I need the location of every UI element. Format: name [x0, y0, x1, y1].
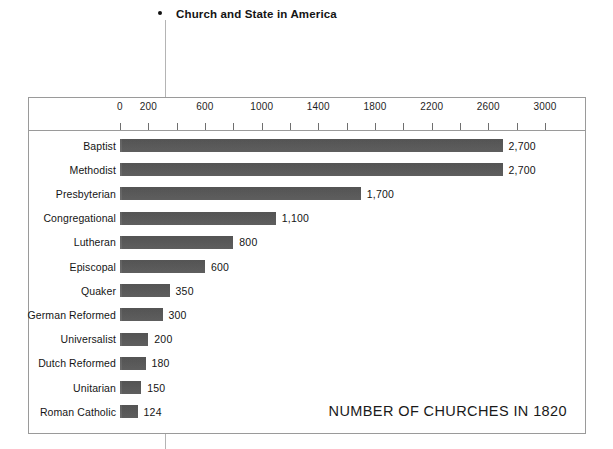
axis-tick-label: 2200 [420, 101, 443, 112]
chart-frame: 0200600100014001800220026003000 Baptist2… [28, 97, 586, 434]
axis-tick-label: 600 [196, 101, 213, 112]
bar [120, 357, 146, 370]
axis-tick [177, 123, 178, 130]
axis-tick-label: 1800 [363, 101, 386, 112]
bar-category-label-wrap: Quaker [29, 284, 116, 297]
bullet-dot-icon [158, 11, 162, 15]
bar-value-label: 350 [176, 285, 194, 297]
bar-category-label-wrap: Lutheran [29, 236, 116, 249]
axis-tick-label: 1000 [250, 101, 273, 112]
axis-tick [375, 123, 376, 130]
bar-value-label: 200 [154, 333, 172, 345]
bar-category-label: Unitarian [0, 382, 116, 394]
bar [120, 381, 141, 394]
bar-category-label-wrap: Roman Catholic [29, 405, 116, 418]
axis-tick [120, 123, 121, 130]
bar-category-label: Congregational [0, 212, 116, 224]
bar-category-label: Baptist [0, 140, 116, 152]
bar-value-label: 150 [147, 382, 165, 394]
bar-category-label-wrap: Episcopal [29, 260, 116, 273]
axis-tick [318, 123, 319, 130]
axis-tick [432, 123, 433, 130]
bar-row: Unitarian150 [29, 381, 585, 394]
axis-tick [347, 123, 348, 130]
bar [120, 139, 503, 152]
bar-category-label: Lutheran [0, 236, 116, 248]
bar [120, 308, 163, 321]
bar-category-label-wrap: Presbyterian [29, 187, 116, 200]
bar-category-label-wrap: Universalist [29, 333, 116, 346]
bar [120, 212, 276, 225]
bar-row: German Reformed300 [29, 308, 585, 321]
bar-row: Congregational1,100 [29, 212, 585, 225]
bar-row: Baptist2,700 [29, 139, 585, 152]
bar-value-label: 800 [239, 236, 257, 248]
axis-tick [460, 123, 461, 130]
bar-category-label-wrap: Methodist [29, 163, 116, 176]
bar-category-label-wrap: Baptist [29, 139, 116, 152]
bar-row: Quaker350 [29, 284, 585, 297]
axis-tick [403, 123, 404, 130]
axis-tick [545, 123, 546, 130]
axis-tick-label: 200 [140, 101, 157, 112]
bar-category-label: German Reformed [0, 309, 116, 321]
bar-category-label: Presbyterian [0, 188, 116, 200]
chart-caption: NUMBER OF CHURCHES IN 1820 [329, 403, 567, 419]
bar-value-label: 124 [144, 406, 162, 418]
bar-value-label: 1,100 [282, 212, 309, 224]
axis-tick-label: 0 [117, 101, 123, 112]
bar-value-label: 600 [211, 261, 229, 273]
axis-tick [488, 123, 489, 130]
bar-category-label: Quaker [0, 285, 116, 297]
axis-tick-label: 3000 [533, 101, 556, 112]
bar [120, 333, 148, 346]
bar-value-label: 180 [152, 357, 170, 369]
bar-category-label-wrap: German Reformed [29, 308, 116, 321]
bar-value-label: 2,700 [509, 140, 536, 152]
bar-category-label-wrap: Congregational [29, 212, 116, 225]
axis-tick [517, 123, 518, 130]
bar [120, 187, 361, 200]
bar [120, 163, 503, 176]
x-axis: 0200600100014001800220026003000 [29, 98, 585, 131]
bar [120, 236, 233, 249]
bar-value-label: 1,700 [367, 188, 394, 200]
axis-tick [290, 123, 291, 130]
bar [120, 405, 138, 418]
slide-heading: Church and State in America [158, 8, 337, 20]
bar-category-label: Methodist [0, 164, 116, 176]
axis-tick [262, 123, 263, 130]
slide-heading-text: Church and State in America [176, 8, 337, 20]
plot-area: Baptist2,700Methodist2,700Presbyterian1,… [29, 131, 585, 433]
bar-row: Dutch Reformed180 [29, 357, 585, 370]
axis-tick-label: 2600 [477, 101, 500, 112]
bar-row: Lutheran800 [29, 236, 585, 249]
axis-tick [205, 123, 206, 130]
bar [120, 284, 170, 297]
axis-tick [148, 123, 149, 130]
bar-row: Episcopal600 [29, 260, 585, 273]
axis-tick [233, 123, 234, 130]
bar-value-label: 300 [169, 309, 187, 321]
axis-tick-label: 1400 [307, 101, 330, 112]
bar-category-label: Roman Catholic [0, 406, 116, 418]
bar [120, 260, 205, 273]
bar-row: Universalist200 [29, 333, 585, 346]
bar-row: Methodist2,700 [29, 163, 585, 176]
bar-category-label: Universalist [0, 333, 116, 345]
bar-category-label-wrap: Dutch Reformed [29, 357, 116, 370]
bar-category-label-wrap: Unitarian [29, 381, 116, 394]
bar-row: Presbyterian1,700 [29, 187, 585, 200]
bar-value-label: 2,700 [509, 164, 536, 176]
bar-category-label: Episcopal [0, 261, 116, 273]
bar-category-label: Dutch Reformed [0, 357, 116, 369]
